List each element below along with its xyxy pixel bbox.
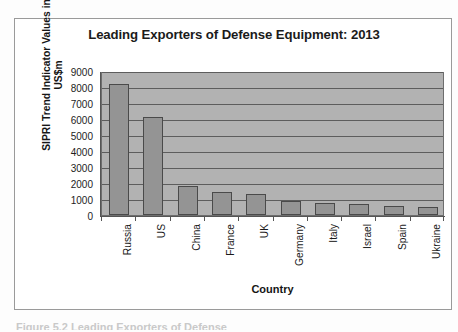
plot-area bbox=[101, 72, 444, 216]
bar bbox=[178, 186, 198, 215]
bar bbox=[212, 192, 232, 215]
y-axis-tick-label: 1000 bbox=[47, 195, 93, 206]
y-axis-tick-label: 7000 bbox=[47, 99, 93, 110]
x-axis-tick-label: China bbox=[191, 222, 202, 292]
x-axis-tick bbox=[170, 217, 171, 221]
x-axis-ticks bbox=[101, 217, 444, 221]
bar bbox=[418, 207, 438, 215]
x-axis-tick-label-wrap: US bbox=[156, 222, 167, 292]
x-axis-tick-label-wrap: Russia bbox=[122, 222, 133, 292]
y-axis-tick-label: 2000 bbox=[47, 179, 93, 190]
x-axis-tick-label: UK bbox=[259, 222, 270, 292]
x-axis-tick-label: Ukraine bbox=[431, 222, 442, 292]
x-axis-tick bbox=[101, 217, 102, 221]
figure-frame: Leading Exporters of Defense Equipment: … bbox=[14, 18, 452, 310]
x-axis-tick-label-wrap: Spain bbox=[397, 222, 408, 292]
x-axis-tick-label-wrap: UK bbox=[259, 222, 270, 292]
x-axis-tick-label-wrap: Israel bbox=[362, 222, 373, 292]
x-axis-tick-labels: RussiaUSChinaFranceUKGermanyItalyIsraelS… bbox=[101, 222, 444, 292]
x-axis-tick-label: France bbox=[225, 222, 236, 292]
x-axis-tick-label: Spain bbox=[397, 222, 408, 292]
y-axis-tick-label: 8000 bbox=[47, 83, 93, 94]
chart-title: Leading Exporters of Defense Equipment: … bbox=[15, 27, 453, 42]
figure-caption-remnant: Figure 5.2 Leading Exporters of Defense bbox=[16, 321, 276, 330]
x-axis-tick-label-wrap: Germany bbox=[294, 222, 305, 292]
x-axis-tick bbox=[307, 217, 308, 221]
x-axis-tick bbox=[410, 217, 411, 221]
y-axis-tick-label: 4000 bbox=[47, 147, 93, 158]
x-axis-tick bbox=[341, 217, 342, 221]
y-axis-tick-label: 3000 bbox=[47, 163, 93, 174]
x-axis-tick-label: Israel bbox=[362, 222, 373, 292]
x-axis-tick-label-wrap: Ukraine bbox=[431, 222, 442, 292]
y-axis-tick-label: 5000 bbox=[47, 131, 93, 142]
y-axis-tick-label: 0 bbox=[47, 211, 93, 222]
x-axis-tick bbox=[443, 217, 444, 221]
x-axis-tick-label-wrap: Italy bbox=[328, 222, 339, 292]
x-axis-title: Country bbox=[101, 283, 444, 295]
bar bbox=[384, 206, 404, 215]
x-axis-tick bbox=[135, 217, 136, 221]
x-axis-tick bbox=[238, 217, 239, 221]
bar-series bbox=[102, 73, 443, 215]
x-axis-tick-label: Italy bbox=[328, 222, 339, 292]
bar bbox=[143, 117, 163, 215]
bar bbox=[246, 194, 266, 215]
x-axis-tick bbox=[273, 217, 274, 221]
x-axis-tick bbox=[375, 217, 376, 221]
y-axis-tick-labels: 0100020003000400050006000700080009000 bbox=[43, 72, 93, 217]
x-axis-tick-label: Russia bbox=[122, 222, 133, 292]
y-axis-tick-label: 6000 bbox=[47, 115, 93, 126]
x-axis-tick-label-wrap: France bbox=[225, 222, 236, 292]
x-axis-tick-label: Germany bbox=[294, 222, 305, 292]
scanned-page: Leading Exporters of Defense Equipment: … bbox=[0, 0, 458, 332]
y-axis-tick-label: 9000 bbox=[47, 67, 93, 78]
bar bbox=[281, 201, 301, 215]
x-axis-tick-label-wrap: China bbox=[191, 222, 202, 292]
x-axis-tick-label: US bbox=[156, 222, 167, 292]
bar bbox=[315, 203, 335, 215]
bar bbox=[349, 204, 369, 215]
bar bbox=[109, 84, 129, 215]
x-axis-tick bbox=[204, 217, 205, 221]
